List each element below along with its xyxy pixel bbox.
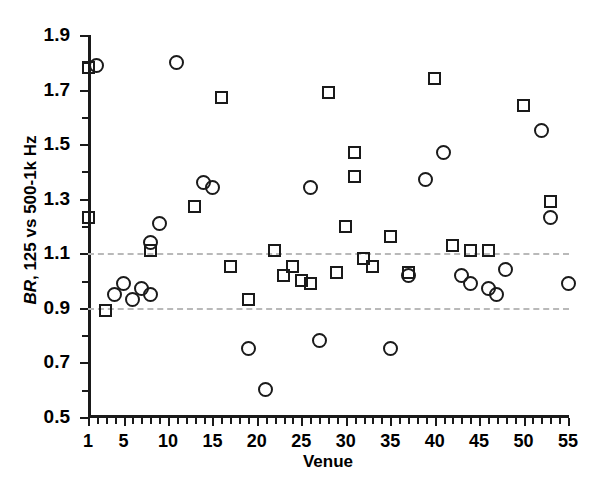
x-tick-minor xyxy=(266,418,268,424)
data-point-square xyxy=(268,244,281,257)
x-tick-minor xyxy=(559,418,561,424)
x-tick-minor xyxy=(488,418,490,424)
x-tick-minor xyxy=(444,418,446,424)
data-point-square xyxy=(517,99,530,112)
x-tick-minor xyxy=(186,418,188,424)
scatter-chart-figure: BR, 125 vs 500-1k Hz 0.50.70.91.11.31.51… xyxy=(0,0,607,489)
x-tick-label: 15 xyxy=(202,431,222,452)
data-point-circle xyxy=(169,55,184,70)
x-tick-minor xyxy=(426,418,428,424)
data-point-square xyxy=(304,277,317,290)
y-tick-label: 1.9 xyxy=(44,24,70,46)
x-tick-label: 35 xyxy=(380,431,400,452)
data-point-circle xyxy=(143,287,158,302)
x-tick-label: 1 xyxy=(83,431,93,452)
data-point-square xyxy=(99,304,112,317)
x-tick-minor xyxy=(364,418,366,424)
reference-line-upper-bound xyxy=(88,253,569,255)
x-tick-minor xyxy=(239,418,241,424)
data-point-square xyxy=(348,170,361,183)
y-tick-minor xyxy=(82,226,88,228)
y-tick-major: 1.1 xyxy=(80,253,88,255)
x-tick-minor xyxy=(541,418,543,424)
data-point-square xyxy=(339,220,352,233)
data-point-circle xyxy=(401,268,416,283)
y-tick-label: 0.7 xyxy=(44,351,70,373)
x-tick-minor xyxy=(532,418,534,424)
x-tick-major xyxy=(479,418,481,426)
x-tick-minor xyxy=(515,418,517,424)
x-tick-minor xyxy=(106,418,108,424)
y-axis-line xyxy=(88,35,91,417)
x-tick-major xyxy=(88,418,90,426)
data-point-circle xyxy=(89,58,104,73)
x-tick-label: 45 xyxy=(469,431,489,452)
x-tick-minor xyxy=(292,418,294,424)
y-tick-minor xyxy=(82,390,88,392)
data-point-square xyxy=(188,200,201,213)
data-point-square xyxy=(544,195,557,208)
data-point-circle xyxy=(561,276,576,291)
y-axis-label-rest: , 125 vs 500-1k Hz xyxy=(21,135,41,280)
x-tick-minor xyxy=(141,418,143,424)
y-tick-major: 0.7 xyxy=(80,362,88,364)
x-tick-minor xyxy=(381,418,383,424)
x-tick-major xyxy=(168,418,170,426)
x-tick-minor xyxy=(284,418,286,424)
y-tick-minor xyxy=(82,117,88,119)
data-point-circle xyxy=(489,287,504,302)
x-tick-minor xyxy=(497,418,499,424)
x-tick-minor xyxy=(97,418,99,424)
y-tick-minor xyxy=(82,281,88,283)
x-tick-minor xyxy=(470,418,472,424)
x-tick-minor xyxy=(195,418,197,424)
plot-area: 0.50.70.91.11.31.51.71.9 151015202530354… xyxy=(88,35,568,417)
x-tick-minor xyxy=(275,418,277,424)
data-point-circle xyxy=(258,382,273,397)
data-point-square xyxy=(348,146,361,159)
data-point-square xyxy=(366,260,379,273)
data-point-circle xyxy=(152,216,167,231)
x-tick-minor xyxy=(230,418,232,424)
data-point-square xyxy=(384,230,397,243)
x-tick-label: 20 xyxy=(247,431,267,452)
x-tick-minor xyxy=(319,418,321,424)
data-point-circle xyxy=(463,276,478,291)
data-point-circle xyxy=(116,276,131,291)
x-tick-major xyxy=(212,418,214,426)
y-tick-label: 0.5 xyxy=(44,406,70,428)
x-tick-minor xyxy=(337,418,339,424)
x-tick-label: 25 xyxy=(291,431,311,452)
data-point-square xyxy=(242,293,255,306)
x-tick-major xyxy=(524,418,526,426)
x-tick-minor xyxy=(159,418,161,424)
data-point-circle xyxy=(383,341,398,356)
y-tick-major: 1.7 xyxy=(80,90,88,92)
y-tick-label: 1.5 xyxy=(44,133,70,155)
x-tick-minor xyxy=(328,418,330,424)
data-point-circle xyxy=(436,145,451,160)
data-point-square xyxy=(446,239,459,252)
y-tick-minor xyxy=(82,335,88,337)
x-tick-minor xyxy=(461,418,463,424)
y-tick-label: 0.9 xyxy=(44,297,70,319)
x-tick-minor xyxy=(177,418,179,424)
y-tick-label: 1.1 xyxy=(44,242,70,264)
data-point-square xyxy=(330,266,343,279)
y-tick-major: 0.5 xyxy=(80,417,88,419)
x-tick-label: 10 xyxy=(158,431,178,452)
x-axis-label: Venue xyxy=(88,452,568,472)
data-point-square xyxy=(482,244,495,257)
x-tick-minor xyxy=(417,418,419,424)
x-tick-major xyxy=(435,418,437,426)
x-tick-minor xyxy=(150,418,152,424)
x-tick-minor xyxy=(550,418,552,424)
x-tick-major xyxy=(301,418,303,426)
x-tick-minor xyxy=(132,418,134,424)
data-point-square xyxy=(224,260,237,273)
x-tick-major xyxy=(346,418,348,426)
y-axis-label-italic: BR xyxy=(21,280,41,305)
x-tick-major xyxy=(568,418,570,426)
y-tick-label: 1.3 xyxy=(44,188,70,210)
data-point-square xyxy=(82,211,95,224)
